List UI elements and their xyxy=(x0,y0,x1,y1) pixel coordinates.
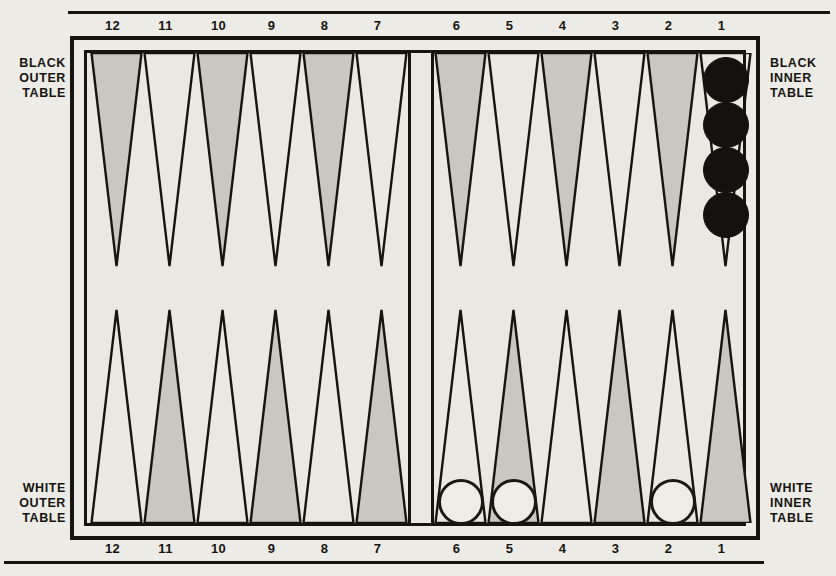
point-number-top-3: 3 xyxy=(588,18,644,33)
point-top-9[interactable] xyxy=(249,53,302,267)
label-black-inner-table: BLACK INNER TABLE xyxy=(770,56,834,101)
point-bottom-10[interactable] xyxy=(196,309,249,523)
point-number-bottom-12: 12 xyxy=(85,541,141,556)
point-number-bottom-6: 6 xyxy=(429,541,485,556)
point-bottom-1[interactable] xyxy=(699,309,752,523)
label-white-outer-table: WHITE OUTER TABLE xyxy=(6,481,66,526)
top-rule xyxy=(68,11,830,14)
point-number-top-11: 11 xyxy=(138,18,194,33)
point-top-5[interactable] xyxy=(487,53,540,267)
point-number-bottom-4: 4 xyxy=(535,541,591,556)
white-checker[interactable] xyxy=(438,479,484,525)
playfield xyxy=(87,53,743,523)
point-top-4[interactable] xyxy=(540,53,593,267)
point-top-11[interactable] xyxy=(143,53,196,267)
point-bottom-3[interactable] xyxy=(593,309,646,523)
white-checker[interactable] xyxy=(491,479,537,525)
point-number-bottom-1: 1 xyxy=(694,541,750,556)
white-checker[interactable] xyxy=(650,479,696,525)
black-checker[interactable] xyxy=(703,102,749,148)
point-number-top-12: 12 xyxy=(85,18,141,33)
point-numbers-bottom: 121110987654321 xyxy=(70,541,760,561)
point-top-6[interactable] xyxy=(434,53,487,267)
board-inner-frame xyxy=(84,50,746,526)
point-number-top-1: 1 xyxy=(694,18,750,33)
point-number-bottom-8: 8 xyxy=(297,541,353,556)
point-bottom-8[interactable] xyxy=(302,309,355,523)
black-checker[interactable] xyxy=(703,57,749,103)
bottom-rule xyxy=(4,561,764,564)
black-checker[interactable] xyxy=(703,192,749,238)
point-number-top-7: 7 xyxy=(350,18,406,33)
point-number-top-10: 10 xyxy=(191,18,247,33)
point-number-bottom-7: 7 xyxy=(350,541,406,556)
point-number-top-9: 9 xyxy=(244,18,300,33)
point-top-2[interactable] xyxy=(646,53,699,267)
point-numbers-top: 121110987654321 xyxy=(70,18,760,38)
point-number-top-2: 2 xyxy=(641,18,697,33)
point-number-bottom-2: 2 xyxy=(641,541,697,556)
point-bottom-12[interactable] xyxy=(90,309,143,523)
point-bottom-9[interactable] xyxy=(249,309,302,523)
point-number-bottom-5: 5 xyxy=(482,541,538,556)
point-number-bottom-11: 11 xyxy=(138,541,194,556)
black-checker[interactable] xyxy=(703,147,749,193)
point-number-top-8: 8 xyxy=(297,18,353,33)
point-number-bottom-10: 10 xyxy=(191,541,247,556)
point-top-12[interactable] xyxy=(90,53,143,267)
point-top-3[interactable] xyxy=(593,53,646,267)
point-bottom-4[interactable] xyxy=(540,309,593,523)
point-number-top-4: 4 xyxy=(535,18,591,33)
board-bar xyxy=(408,53,434,523)
label-white-inner-table: WHITE INNER TABLE xyxy=(770,481,834,526)
point-bottom-7[interactable] xyxy=(355,309,408,523)
point-top-7[interactable] xyxy=(355,53,408,267)
label-black-outer-table: BLACK OUTER TABLE xyxy=(6,56,66,101)
point-top-10[interactable] xyxy=(196,53,249,267)
backgammon-board xyxy=(70,36,760,540)
point-top-8[interactable] xyxy=(302,53,355,267)
point-bottom-11[interactable] xyxy=(143,309,196,523)
point-number-top-6: 6 xyxy=(429,18,485,33)
point-number-bottom-9: 9 xyxy=(244,541,300,556)
point-number-bottom-3: 3 xyxy=(588,541,644,556)
point-number-top-5: 5 xyxy=(482,18,538,33)
